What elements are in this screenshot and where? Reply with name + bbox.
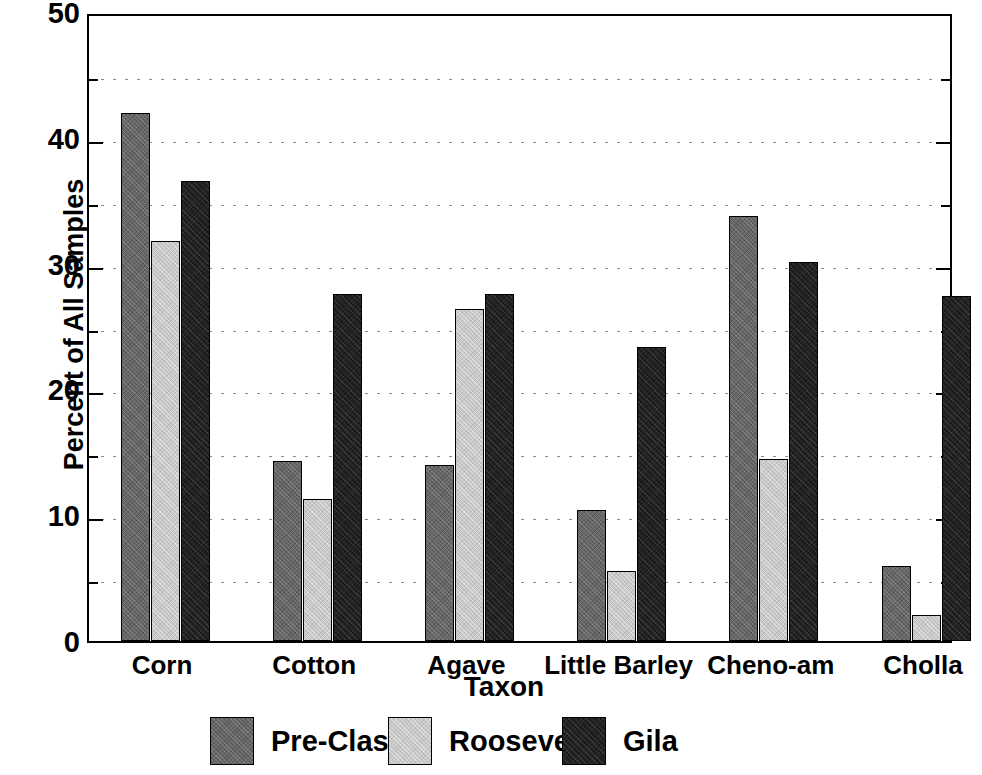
- bar[interactable]: [577, 510, 606, 641]
- gridline: [89, 519, 950, 520]
- gridline: [89, 205, 950, 206]
- y-tick-label: 50: [20, 0, 80, 28]
- bar[interactable]: [729, 216, 758, 641]
- axis-tick-mark: [89, 142, 103, 144]
- bar[interactable]: [121, 113, 150, 641]
- axis-tick-mark: [89, 519, 103, 521]
- chart-legend: Pre-ClassicRooseveltGila: [0, 712, 982, 774]
- axis-tick-mark: [89, 205, 98, 207]
- bar[interactable]: [759, 459, 788, 641]
- plot-area: [87, 14, 952, 643]
- bar-group: [273, 16, 362, 641]
- axis-tick-mark: [89, 79, 98, 81]
- axis-tick-mark: [89, 393, 103, 395]
- bar[interactable]: [882, 566, 911, 641]
- bar[interactable]: [607, 571, 636, 641]
- bar[interactable]: [151, 241, 180, 641]
- gridline: [89, 268, 950, 269]
- bar[interactable]: [425, 465, 454, 641]
- axis-tick-mark: [89, 456, 98, 458]
- bar[interactable]: [333, 294, 362, 641]
- bar[interactable]: [912, 615, 941, 641]
- bar[interactable]: [637, 347, 666, 641]
- y-tick-label: 10: [20, 502, 80, 531]
- bar[interactable]: [942, 296, 971, 641]
- bar[interactable]: [485, 294, 514, 641]
- bar-group: [577, 16, 666, 641]
- bar-group: [425, 16, 514, 641]
- axis-tick-mark: [89, 268, 103, 270]
- y-tick-label: 20: [20, 376, 80, 405]
- gridline: [89, 582, 950, 583]
- bar[interactable]: [455, 309, 484, 641]
- bar[interactable]: [273, 461, 302, 641]
- bar[interactable]: [789, 262, 818, 641]
- gridline: [89, 331, 950, 332]
- x-axis-title-text: Taxon: [464, 671, 544, 703]
- bar-chart-figure: Percent of All Samples 01020304050 CornC…: [0, 0, 982, 775]
- gridline: [89, 456, 950, 457]
- bar[interactable]: [303, 499, 332, 641]
- plot-inner: [89, 16, 950, 641]
- axis-tick-mark: [89, 582, 98, 584]
- y-tick-label: 30: [20, 251, 80, 280]
- legend-entry[interactable]: Roosevelt: [388, 712, 588, 770]
- gridline: [89, 79, 950, 80]
- bar-group: [729, 16, 818, 641]
- legend-swatch: [562, 717, 606, 765]
- legend-swatch: [388, 717, 432, 765]
- bar-group: [121, 16, 210, 641]
- x-axis-title: Taxon: [0, 671, 982, 703]
- legend-label: Gila: [623, 725, 678, 758]
- bar[interactable]: [181, 181, 210, 641]
- legend-entry[interactable]: Gila: [562, 712, 678, 770]
- bar-group: [882, 16, 971, 641]
- gridline: [89, 142, 950, 143]
- y-tick-label: 40: [20, 125, 80, 154]
- gridline: [89, 393, 950, 394]
- axis-tick-mark: [89, 331, 98, 333]
- legend-swatch: [210, 717, 254, 765]
